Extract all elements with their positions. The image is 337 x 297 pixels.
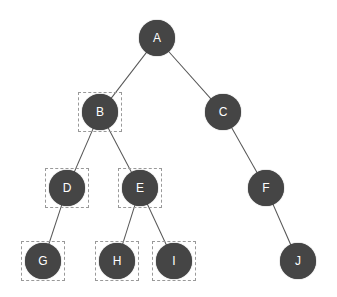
node-d: D: [49, 170, 85, 206]
node-c: C: [205, 94, 241, 130]
node-b: B: [82, 94, 118, 130]
node-g: G: [25, 243, 61, 279]
node-f: F: [248, 170, 284, 206]
node-e: E: [122, 170, 158, 206]
node-h: H: [99, 243, 135, 279]
tree-diagram: ABCDEFGHIJ: [0, 0, 337, 297]
node-i: I: [156, 243, 192, 279]
node-j: J: [280, 243, 316, 279]
node-a: A: [139, 20, 175, 56]
